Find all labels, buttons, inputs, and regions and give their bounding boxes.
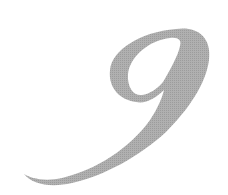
numeral-stroke (24, 28, 209, 185)
numeral-nine-icon (0, 0, 228, 195)
decorative-numeral-nine: 9 (0, 0, 228, 195)
